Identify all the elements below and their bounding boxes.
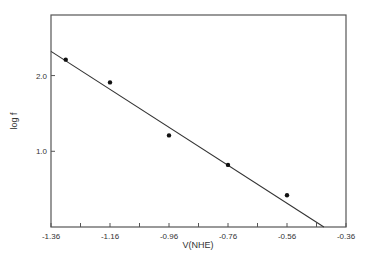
x-tick-label: -1.36 — [42, 232, 61, 241]
data-point — [108, 80, 112, 84]
fit-line — [51, 51, 324, 227]
data-point — [285, 193, 289, 197]
x-tick-label: -0.36 — [337, 232, 356, 241]
y-tick-label: 2.0 — [36, 72, 48, 81]
x-tick-label: -0.56 — [278, 232, 297, 241]
y-axis-ticks: 1.02.0 — [36, 72, 55, 157]
y-axis-title: log f — [9, 112, 19, 130]
x-axis-title: V(NHE) — [183, 240, 214, 250]
x-axis-ticks: -1.36-1.16-0.96-0.76-0.56-0.36 — [42, 223, 356, 241]
x-tick-label: -0.96 — [160, 232, 179, 241]
data-point — [64, 57, 68, 61]
x-tick-label: -1.16 — [101, 232, 120, 241]
chart: -1.36-1.16-0.96-0.76-0.56-0.36 1.02.0 V(… — [0, 0, 373, 259]
plot-frame — [51, 15, 346, 227]
y-tick-label: 1.0 — [36, 147, 48, 156]
data-points — [64, 57, 290, 197]
x-tick-label: -0.76 — [219, 232, 238, 241]
data-point — [226, 163, 230, 167]
data-point — [167, 133, 171, 137]
